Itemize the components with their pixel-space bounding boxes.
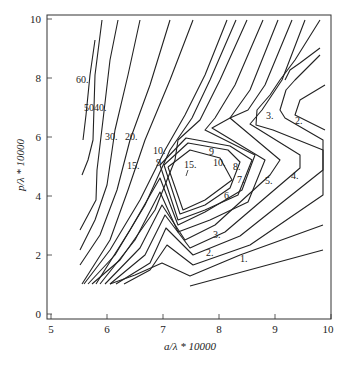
contour-label: 5. <box>265 175 273 186</box>
y-tick-label: 2 <box>36 249 42 261</box>
contour-label: 2. <box>295 115 303 126</box>
contour-label: 15. <box>127 160 140 171</box>
contour-40 <box>80 20 118 230</box>
contour-label: 9 <box>156 157 161 168</box>
y-axis-label: p/λ * 10000 <box>14 139 26 192</box>
contour-label: 60. <box>76 74 89 85</box>
y-tick-label: 0 <box>36 308 42 320</box>
x-axis-label: a/λ * 10000 <box>164 340 216 352</box>
x-tick-label: 5 <box>48 323 54 335</box>
contour-label: 20. <box>125 131 138 142</box>
peak-marker <box>186 170 188 176</box>
x-tick-label: 8 <box>216 323 222 335</box>
contour-label: 10. <box>213 157 226 168</box>
contour-2-right <box>285 48 320 80</box>
x-tick-label: 10 <box>323 323 335 335</box>
contour-label: 2. <box>206 247 214 258</box>
contour-label: 30. <box>105 131 118 142</box>
contour-7 <box>96 20 263 284</box>
contour-label: 8. <box>233 161 241 172</box>
y-tick-label: 8 <box>36 72 42 84</box>
x-tick-label: 6 <box>104 323 110 335</box>
contour-label: 15. <box>184 159 197 170</box>
x-tick-label: 9 <box>272 323 278 335</box>
contour-label: 10. <box>153 145 166 156</box>
x-axis: 5 6 7 8 9 10 a/λ * 10000 <box>48 314 334 352</box>
contour-chart: 60. 5040. 30. 20. 15. 10. 9 15. 9 10. 8.… <box>0 0 343 367</box>
y-axis: 0 2 4 6 8 10 p/λ * 10000 <box>14 13 52 320</box>
y-tick-label: 6 <box>36 131 42 143</box>
contour-label: 6. <box>224 190 232 201</box>
contour-label: 3. <box>266 110 274 121</box>
contour-label: 9 <box>209 146 214 157</box>
contour-labels: 60. 5040. 30. 20. 15. 10. 9 15. 9 10. 8.… <box>76 74 303 264</box>
x-tick-label: 7 <box>160 323 166 335</box>
contour-label: 7. <box>237 174 245 185</box>
contour-20 <box>80 20 170 265</box>
contour-label: 3. <box>213 229 221 240</box>
y-tick-label: 10 <box>30 13 42 25</box>
contour-3 <box>116 20 323 284</box>
contour-label: 1. <box>240 253 248 264</box>
contour-label: 5040. <box>84 102 107 113</box>
y-tick-label: 4 <box>36 190 42 202</box>
contour-label: 4. <box>291 170 299 181</box>
contour-lines <box>80 20 325 286</box>
